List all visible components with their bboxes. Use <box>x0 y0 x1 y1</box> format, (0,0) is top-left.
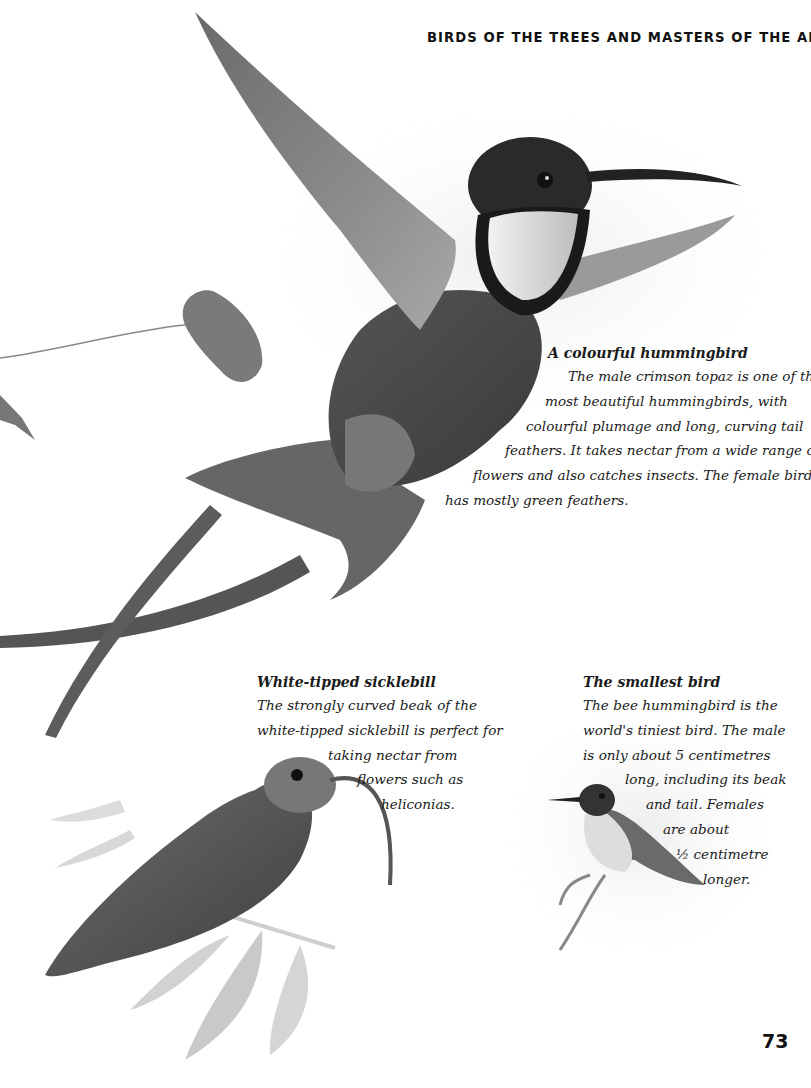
caption-line: are about <box>583 817 811 842</box>
caption-line: has mostly green feathers. <box>445 488 811 513</box>
caption-sicklebill: White-tipped sicklebill The strongly cur… <box>257 671 497 817</box>
book-page: BIRDS OF THE TREES AND MASTERS OF THE AI… <box>0 0 811 1088</box>
caption-line: flowers and also catches insects. The fe… <box>445 463 811 488</box>
caption-line: colourful plumage and long, curving tail <box>445 414 811 439</box>
caption-line: world's tiniest bird. The male <box>583 718 811 743</box>
running-head: BIRDS OF THE TREES AND MASTERS OF THE AI… <box>427 30 807 45</box>
caption-crimson-topaz: A colourful hummingbird The male crimson… <box>445 342 811 513</box>
caption-line: white-tipped sicklebill is perfect for <box>257 718 497 743</box>
caption-line: The strongly curved beak of the <box>257 693 497 718</box>
caption-line: flowers such as <box>257 767 497 792</box>
caption-title: A colourful hummingbird <box>445 342 811 364</box>
caption-line: longer. <box>583 867 811 892</box>
caption-title: The smallest bird <box>583 671 811 693</box>
caption-line: taking nectar from <box>257 743 497 768</box>
caption-line: The bee hummingbird is the <box>583 693 811 718</box>
caption-line: long, including its beak <box>583 767 811 792</box>
page-number: 73 <box>762 1030 788 1052</box>
illustrations-layer <box>0 0 811 1088</box>
caption-line: feathers. It takes nectar from a wide ra… <box>445 438 811 463</box>
leaf-illustration <box>0 290 262 440</box>
caption-line: ½ centimetre <box>583 842 811 867</box>
caption-bee-hummingbird: The smallest bird The bee hummingbird is… <box>583 671 811 891</box>
caption-title: White-tipped sicklebill <box>257 671 497 693</box>
caption-line: most beautiful hummingbirds, with <box>445 389 811 414</box>
caption-line: The male crimson topaz is one of the <box>445 364 811 389</box>
caption-line: and tail. Females <box>583 792 811 817</box>
caption-line: heliconias. <box>257 792 497 817</box>
caption-line: is only about 5 centimetres <box>583 743 811 768</box>
